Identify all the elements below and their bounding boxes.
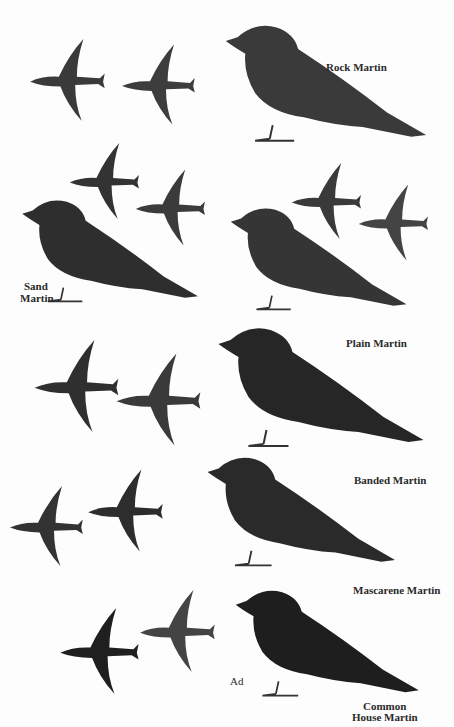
label-sand-martin-1: Sand [24, 280, 48, 292]
house-martin-flying-2 [136, 556, 218, 706]
field-guide-plate: Rock Martin Sand Martin Plain Martin Ban… [0, 0, 454, 727]
mascarene-martin-flying-1 [6, 452, 86, 600]
plain-martin-perched [214, 203, 419, 323]
label-sand-martin-2: Martin [20, 292, 54, 304]
label-rock-martin: Rock Martin [326, 61, 387, 73]
rock-martin-perched [216, 18, 431, 158]
house-martin-perched [210, 585, 440, 710]
mascarene-martin-perched [184, 452, 414, 580]
banded-martin-perched [196, 322, 441, 462]
mascarene-martin-flying-2 [84, 448, 166, 573]
banded-martin-flying-1 [30, 336, 122, 436]
label-adult: Ad [230, 675, 243, 687]
house-martin-flying-1 [56, 590, 142, 712]
rock-martin-flying-1 [26, 20, 108, 140]
label-house-martin-2: House Martin [352, 711, 418, 723]
